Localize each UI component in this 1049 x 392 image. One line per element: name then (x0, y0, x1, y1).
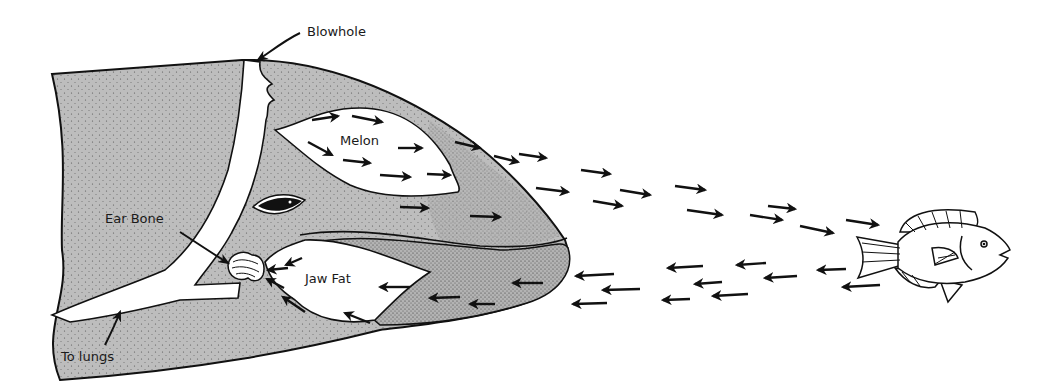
fish (857, 210, 1010, 302)
echolocation-diagram (0, 0, 1049, 392)
label-blowhole: Blowhole (307, 25, 366, 38)
label-ear-bone: Ear Bone (105, 212, 164, 225)
label-to-lungs: To lungs (61, 350, 114, 363)
label-jaw-fat: Jaw Fat (305, 272, 351, 285)
blowhole-leader (258, 33, 300, 60)
ear-bone (228, 252, 264, 280)
label-melon: Melon (340, 134, 379, 147)
